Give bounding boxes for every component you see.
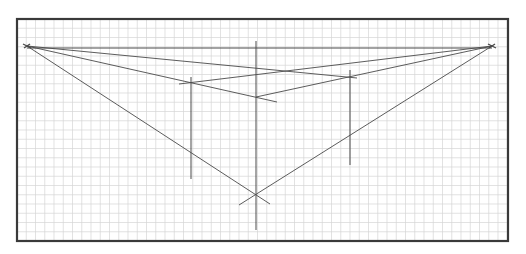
perspective-diagram bbox=[0, 0, 526, 254]
paper-background bbox=[0, 0, 526, 254]
